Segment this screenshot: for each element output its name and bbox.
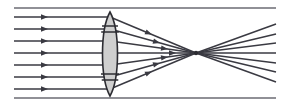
incoming-ray-arrowhead (41, 50, 48, 55)
converging-ray-segment (110, 29, 196, 53)
focal-point-group (194, 51, 198, 55)
lens-group (101, 12, 119, 96)
incoming-ray-arrowhead (41, 14, 48, 19)
refracted-ray-arrowhead (169, 50, 176, 55)
refracted-ray-arrowhead (161, 55, 168, 60)
incoming-ray-3 (14, 38, 110, 43)
incoming-ray-arrowhead (41, 86, 48, 91)
refracted-ray-3 (110, 41, 276, 63)
refracted-ray-arrowhead (145, 29, 152, 34)
incoming-ray-arrowhead (41, 74, 48, 79)
refracted-ray-6 (110, 34, 276, 77)
incoming-ray-6 (14, 74, 110, 79)
incoming-ray-7 (14, 86, 110, 91)
ray-diagram-figure: Converging lens ray diagram Parallel lig… (0, 0, 290, 105)
incoming-ray-arrowhead (41, 38, 48, 43)
converging-lens-diagram: Converging lens ray diagram Parallel lig… (0, 0, 290, 105)
outgoing-rays-group (110, 17, 276, 89)
incoming-ray-1 (14, 14, 110, 19)
incoming-ray-arrowhead (41, 62, 48, 67)
converging-ray-segment (110, 53, 196, 77)
focal-point-marker (194, 51, 198, 55)
refracted-ray-arrowhead (145, 71, 152, 76)
incoming-ray-arrowhead (41, 26, 48, 31)
refracted-ray-arrowhead (161, 45, 168, 50)
lens-body (103, 12, 118, 96)
refracted-ray-1 (110, 17, 276, 82)
incoming-rays-group (14, 14, 110, 91)
diverging-ray-segment (196, 53, 276, 72)
refracted-ray-7 (110, 24, 276, 89)
refracted-ray-arrowhead (153, 62, 160, 67)
incoming-ray-5 (14, 62, 110, 67)
refracted-ray-arrowhead (153, 38, 160, 43)
incoming-ray-2 (14, 26, 110, 31)
diverging-ray-segment (196, 34, 276, 53)
incoming-ray-4 (14, 50, 110, 55)
refracted-ray-2 (110, 29, 276, 72)
